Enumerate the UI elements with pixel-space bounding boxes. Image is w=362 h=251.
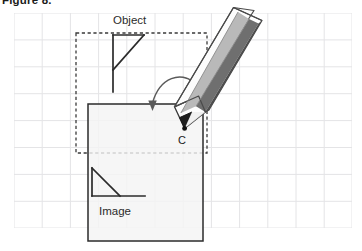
figure-container: Figure 8. bbox=[0, 0, 362, 251]
point-c-marker bbox=[182, 126, 187, 131]
optics-projection-diagram: Object Image bbox=[0, 0, 362, 251]
point-c-label: C bbox=[178, 134, 186, 146]
image-label: Image bbox=[99, 205, 131, 217]
object-label: Object bbox=[113, 14, 147, 26]
